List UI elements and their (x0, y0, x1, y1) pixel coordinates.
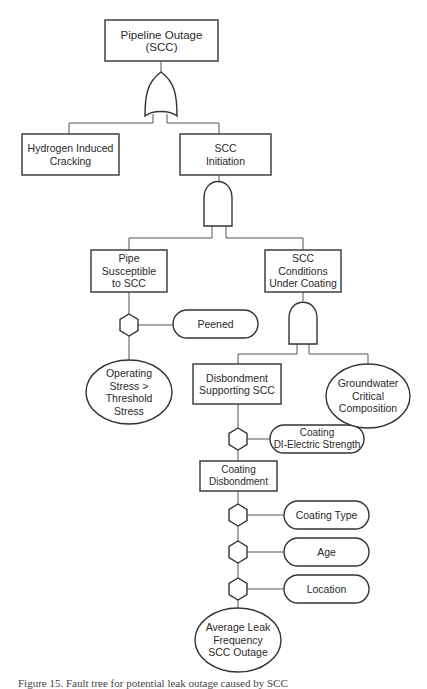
node-hydrogen-induced-cracking: Hydrogen Induced Cracking (22, 134, 119, 175)
inhibit-hexagon-icon (229, 578, 247, 600)
node-age: Age (284, 538, 369, 566)
inhibit-hexagon-icon (229, 541, 247, 563)
node-coating-dielectric: Coating DI-Electric Strength (270, 425, 364, 453)
and-gate-icon (289, 302, 317, 344)
node-groundwater: Groundwater Critical Composition (326, 364, 410, 428)
figure-caption: Figure 15. Fault tree for potential leak… (18, 677, 288, 689)
inhibit-hexagon-icon (229, 428, 247, 450)
inhibit-hexagon-icon (120, 314, 138, 336)
node-average-leak-frequency: Average Leak Frequency SCC Outage (195, 608, 281, 672)
or-gate-icon (145, 72, 177, 116)
node-scc-conditions: SCC Conditions Under Coating (265, 250, 341, 292)
and-gate-icon (204, 182, 232, 227)
node-scc-initiation: SCC Initiation (180, 134, 271, 175)
node-location: Location (284, 575, 369, 603)
node-peened: Peened (173, 310, 258, 338)
node-disbondment-supporting: Disbondment Supporting SCC (193, 364, 281, 404)
inhibit-hexagon-icon (229, 504, 247, 526)
node-pipeline-outage: Pipeline Outage (SCC) (105, 20, 218, 61)
node-pipe-susceptible: Pipe Susceptible to SCC (91, 250, 167, 292)
node-operating-stress: Operating Stress > Threshold Stress (86, 360, 172, 424)
node-coating-type: Coating Type (284, 501, 369, 529)
node-coating-disbondment: Coating Disbondment (200, 461, 277, 491)
